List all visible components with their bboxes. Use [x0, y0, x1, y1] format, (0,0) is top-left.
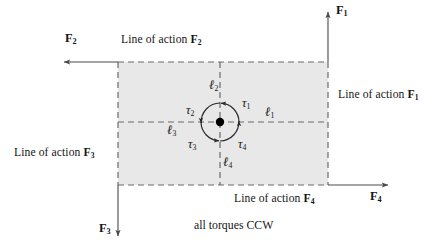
- line-of-action-f1-label: Line of action F1: [338, 89, 419, 101]
- force-label-f4: F4: [370, 190, 382, 204]
- force-symbol-f1: F: [407, 88, 414, 101]
- figure-caption: all torques CCW: [194, 220, 273, 232]
- lever-arm-label-l4: ℓ4: [223, 155, 232, 170]
- torque-label-tau2: τ2: [186, 104, 194, 118]
- lever-arm-label-l3: ℓ3: [167, 123, 176, 138]
- torque-label-tau4: τ4: [238, 138, 246, 152]
- force-symbol-f4: F: [303, 192, 310, 205]
- lever-arm-label-l1: ℓ1: [265, 105, 274, 120]
- force-subscript-f3: 3: [91, 151, 95, 160]
- force-symbol-f2: F: [190, 33, 197, 46]
- line-of-action-f4-label: Line of action F4: [234, 193, 315, 205]
- force-label-f1: F1: [336, 4, 348, 18]
- force-subscript-f4: 4: [311, 197, 315, 206]
- torque-diagram: Line of action F2 Line of action F1 Line…: [0, 0, 446, 252]
- lever-arm-label-l2: ℓ2: [209, 78, 218, 93]
- line-of-action-f3-label: Line of action F3: [14, 147, 95, 159]
- torque-label-tau3: τ3: [188, 138, 196, 152]
- pivot-point: [216, 118, 224, 126]
- force-subscript-f2: 2: [198, 38, 202, 47]
- line-of-action-f2-label: Line of action F2: [121, 34, 202, 46]
- force-subscript-f1: 1: [415, 93, 419, 102]
- torque-label-tau1: τ1: [242, 97, 250, 111]
- force-label-f2: F2: [65, 32, 77, 46]
- force-symbol-f3: F: [83, 146, 90, 159]
- force-label-f3: F3: [99, 222, 111, 236]
